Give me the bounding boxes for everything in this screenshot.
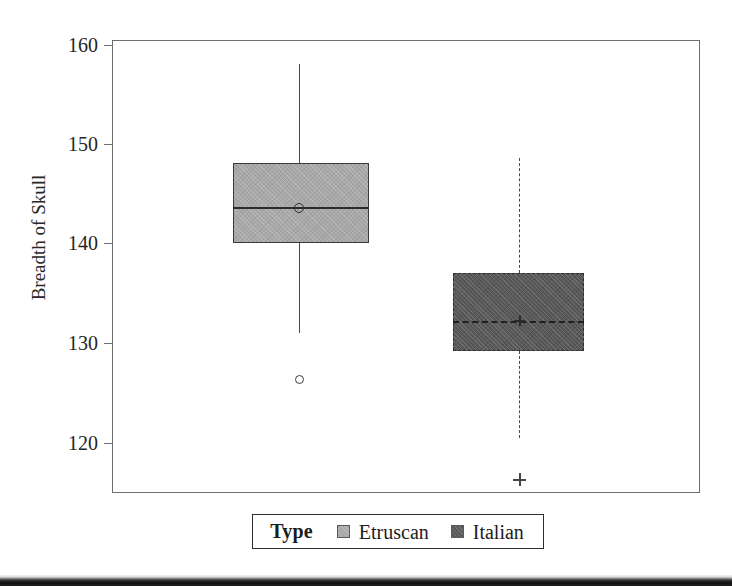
italian-mean-marker [514, 315, 525, 326]
y-tick-label-140: 140 [48, 233, 98, 253]
y-tick-label-150: 150 [48, 134, 98, 154]
italian-box [453, 273, 584, 351]
y-tick-mark-160 [104, 45, 112, 46]
plot-area [112, 40, 700, 493]
legend-item-etruscan[interactable]: Etruscan [337, 522, 429, 542]
legend-label-etruscan: Etruscan [359, 522, 429, 542]
y-tick-mark-130 [104, 343, 112, 344]
y-tick-mark-140 [104, 243, 112, 244]
legend-item-italian[interactable]: Italian [451, 522, 524, 542]
etruscan-mean-marker [294, 203, 304, 213]
italian-outlier-point [513, 473, 526, 486]
etruscan-lower-whisker [299, 242, 300, 333]
etruscan-outlier-point [295, 375, 304, 384]
italian-upper-whisker [519, 158, 520, 273]
italian-lower-whisker [519, 351, 520, 438]
y-axis-title: Breadth of Skull [29, 138, 48, 338]
legend-label-italian: Italian [473, 522, 524, 542]
boxplot-figure: Breadth of Skull 160 150 140 130 120 [0, 0, 732, 586]
etruscan-upper-whisker [299, 64, 300, 164]
y-tick-label-120: 120 [48, 433, 98, 453]
legend-swatch-icon-etruscan [337, 525, 350, 538]
page-bottom-edge [0, 575, 732, 586]
chart-legend: Type Etruscan Italian [252, 514, 544, 549]
legend-title: Type [270, 520, 313, 543]
y-tick-label-160: 160 [48, 35, 98, 55]
y-tick-label-130: 130 [48, 333, 98, 353]
y-tick-mark-150 [104, 144, 112, 145]
y-tick-mark-120 [104, 443, 112, 444]
legend-swatch-icon-italian [451, 525, 464, 538]
